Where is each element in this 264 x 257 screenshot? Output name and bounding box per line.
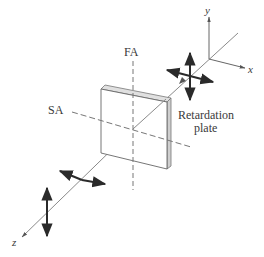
z-axis-label: z [11, 236, 17, 248]
input-polarization-arrows [167, 53, 213, 100]
fast-axis-label: FA [124, 45, 139, 59]
slow-axis-label: SA [48, 103, 64, 117]
plate-label-line1: Retardation [178, 108, 234, 122]
propagation-arrow-icon [179, 77, 186, 84]
y-axis-label: y [204, 4, 210, 16]
diagram-canvas: y x z FA SA Retardation plate [0, 0, 264, 257]
plate-label-line2: plate [194, 121, 217, 135]
x-axis-label: x [247, 63, 253, 75]
x-axis [209, 59, 245, 68]
retardation-plate [101, 85, 171, 169]
